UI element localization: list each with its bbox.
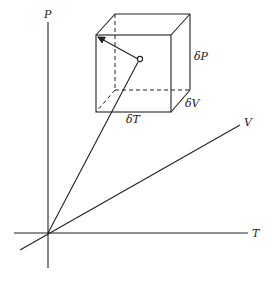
v-axis-label: V: [244, 116, 253, 129]
cube-hidden-edges: [96, 14, 190, 112]
v-axis: [20, 125, 240, 250]
delta-p-label: δP: [194, 50, 209, 63]
delta-v-label: δV: [185, 97, 201, 110]
p-axis-label: P: [43, 8, 52, 21]
state-point: [137, 56, 142, 61]
pvt-diagram: P T V δP δV δT: [0, 0, 272, 282]
cube-visible-edges: [96, 14, 190, 112]
delta-t-label: δT: [126, 113, 142, 126]
cube-front-face: [96, 35, 171, 112]
state-vector: [48, 62, 138, 233]
t-axis-label: T: [252, 227, 261, 240]
displacement-arrow: [98, 37, 138, 59]
